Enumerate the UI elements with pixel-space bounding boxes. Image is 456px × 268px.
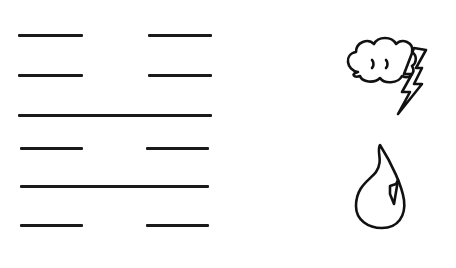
line-3-broken-right [146, 147, 209, 150]
line-6-broken-right [148, 34, 212, 37]
line-4-solid [18, 114, 212, 117]
water-drop-icon [350, 140, 420, 250]
line-2-solid [20, 185, 209, 188]
line-3-broken-left [20, 147, 83, 150]
line-5-broken-right [148, 74, 212, 77]
line-1-broken-left [20, 224, 83, 227]
line-1-broken-right [146, 224, 209, 227]
line-6-broken-left [18, 34, 83, 37]
thunder-cloud-icon [336, 30, 436, 120]
line-5-broken-left [18, 74, 83, 77]
